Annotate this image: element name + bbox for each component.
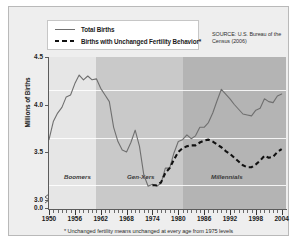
y-tick-mark bbox=[45, 152, 49, 153]
chart-lines bbox=[49, 57, 286, 209]
x-tick-minor bbox=[221, 210, 222, 213]
y-tick-label-3-0: 3.0 bbox=[21, 196, 43, 203]
x-tick-minor bbox=[174, 210, 175, 213]
x-tick-minor bbox=[135, 210, 136, 213]
x-tick-minor bbox=[79, 210, 80, 213]
x-tick-minor bbox=[226, 210, 227, 213]
x-tick-minor bbox=[273, 210, 274, 213]
x-tick-minor bbox=[109, 210, 110, 213]
x-tick-label-1986: 1986 bbox=[191, 215, 217, 222]
x-tick-minor bbox=[239, 210, 240, 213]
x-tick-minor bbox=[208, 210, 209, 213]
y-tick-label-4-0: 4.0 bbox=[21, 101, 43, 108]
x-tick-label-1968: 1968 bbox=[114, 215, 140, 222]
x-tick-minor bbox=[196, 210, 197, 213]
x-tick-minor bbox=[71, 210, 72, 213]
x-tick-minor bbox=[183, 210, 184, 213]
x-tick-minor bbox=[144, 210, 145, 213]
x-tick-minor bbox=[260, 210, 261, 213]
x-tick-minor bbox=[243, 210, 244, 213]
x-tick-minor bbox=[170, 210, 171, 213]
x-tick-minor bbox=[66, 210, 67, 213]
y-tick-mark bbox=[45, 105, 49, 106]
x-tick-label-1974: 1974 bbox=[139, 215, 165, 222]
x-tick-minor bbox=[200, 210, 201, 213]
x-tick-label-1956: 1956 bbox=[62, 215, 88, 222]
x-tick-minor bbox=[105, 210, 106, 213]
x-tick-minor bbox=[131, 210, 132, 213]
x-tick-label-1998: 1998 bbox=[243, 215, 269, 222]
x-tick-minor bbox=[53, 210, 54, 213]
y-tick-mark bbox=[45, 57, 49, 58]
x-tick-label-1950: 1950 bbox=[36, 215, 62, 222]
chart-screenshot: Total Births Births with Unchanged Ferti… bbox=[0, 0, 297, 249]
x-tick-minor bbox=[157, 210, 158, 213]
y-tick-label-0-0: 0.0 bbox=[21, 204, 43, 211]
x-tick-minor bbox=[165, 210, 166, 213]
x-tick-minor bbox=[92, 210, 93, 213]
x-tick-minor bbox=[148, 210, 149, 213]
x-tick-minor bbox=[118, 210, 119, 213]
x-tick-minor bbox=[96, 210, 97, 213]
x-tick-minor bbox=[191, 210, 192, 213]
x-tick-minor bbox=[62, 210, 63, 213]
x-tick-minor bbox=[252, 210, 253, 213]
x-tick-minor bbox=[122, 210, 123, 213]
y-tick-label-4-5: 4.5 bbox=[21, 53, 43, 60]
legend-label-unchanged-fertility: Births with Unchanged Fertility Behavior… bbox=[81, 38, 201, 46]
unchanged-fertility-line bbox=[152, 140, 281, 186]
chart-legend: Total Births Births with Unchanged Ferti… bbox=[47, 20, 199, 50]
dashed-line-icon bbox=[54, 38, 76, 46]
legend-item-unchanged-fertility: Births with Unchanged Fertility Behavior… bbox=[54, 36, 193, 48]
x-tick-minor bbox=[83, 210, 84, 213]
x-tick-minor bbox=[213, 210, 214, 213]
y-tick-mark bbox=[45, 208, 49, 209]
x-tick-minor bbox=[217, 210, 218, 213]
chart-card: Total Births Births with Unchanged Ferti… bbox=[8, 6, 289, 236]
axis-break-icon bbox=[44, 193, 53, 204]
x-tick-minor bbox=[139, 210, 140, 213]
y-tick-mark bbox=[45, 200, 49, 201]
x-tick-minor bbox=[88, 210, 89, 213]
source-note: SOURCE: U.S. Bureau of the Census (2006) bbox=[212, 31, 288, 46]
y-tick-label-3-5: 3.5 bbox=[21, 148, 43, 155]
y-axis bbox=[48, 57, 49, 209]
chart-footnote: * Unchanged fertility means unchanged at… bbox=[9, 228, 288, 234]
x-tick-label-2004: 2004 bbox=[269, 215, 295, 222]
x-tick-label-1962: 1962 bbox=[88, 215, 114, 222]
x-tick-minor bbox=[161, 210, 162, 213]
legend-item-total-births: Total Births bbox=[54, 24, 193, 36]
x-tick-minor bbox=[277, 210, 278, 213]
x-tick-minor bbox=[187, 210, 188, 213]
total-births-line bbox=[49, 75, 282, 186]
legend-label-total-births: Total Births bbox=[81, 26, 114, 34]
x-tick-label-1992: 1992 bbox=[217, 215, 243, 222]
x-tick-minor bbox=[58, 210, 59, 213]
solid-line-icon bbox=[54, 26, 76, 34]
x-tick-minor bbox=[264, 210, 265, 213]
x-tick-label-1980: 1980 bbox=[165, 215, 191, 222]
x-tick-minor bbox=[269, 210, 270, 213]
x-tick-minor bbox=[114, 210, 115, 213]
x-tick-minor bbox=[247, 210, 248, 213]
plot-area: Boomers Gen-Xers Millennials bbox=[49, 57, 286, 209]
x-tick-minor bbox=[234, 210, 235, 213]
